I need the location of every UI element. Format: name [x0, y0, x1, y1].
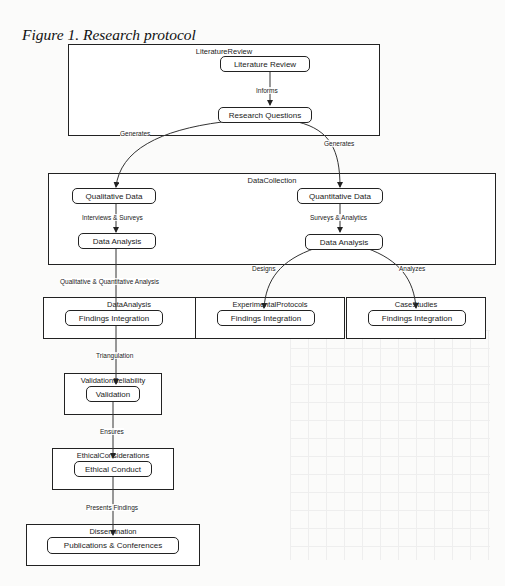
edge-label-presents-findings: Presents Findings — [86, 504, 138, 511]
edge-label-informs: Informs — [256, 87, 278, 94]
edge-label-interviews-surveys: Interviews & Surveys — [82, 214, 143, 221]
node-research-questions: Research Questions — [218, 107, 312, 123]
edge-label-surveys-analytics: Surveys & Analytics — [310, 214, 367, 221]
node-quant-data-analysis: Data Analysis — [305, 234, 383, 250]
edge-label-ensures: Ensures — [100, 428, 124, 435]
node-findings-integration-3: Findings Integration — [368, 310, 466, 326]
node-publications: Publications & Conferences — [47, 537, 179, 554]
node-quantitative-data: Quantitative Data — [297, 188, 383, 204]
node-validation: Validation — [86, 386, 140, 402]
node-findings-integration-2: Findings Integration — [217, 310, 315, 326]
node-literature-review: Literature Review — [220, 56, 310, 72]
edge-label-designs: Designs — [252, 265, 275, 272]
edge-label-triangulation: Triangulation — [96, 352, 133, 359]
edge-label-generates-right: Generates — [324, 140, 354, 147]
edge-label-analyzes: Analyzes — [399, 265, 425, 272]
node-findings-integration-1: Findings Integration — [65, 310, 163, 326]
edge-label-generates-left: Generates — [120, 130, 150, 137]
node-qualitative-data: Qualitative Data — [72, 188, 156, 204]
node-ethical-conduct: Ethical Conduct — [74, 461, 152, 477]
node-qual-data-analysis: Data Analysis — [78, 233, 156, 249]
edges-layer — [0, 0, 505, 586]
edge-label-qual-quant-analysis: Qualitative & Quantitative Analysis — [60, 278, 159, 285]
